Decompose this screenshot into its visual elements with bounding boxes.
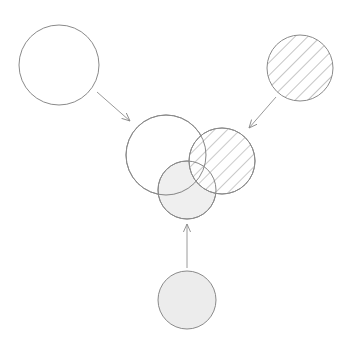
center-venn-layer [126, 115, 255, 219]
source-circle-gray-set [158, 271, 216, 329]
arrow-icon-from-plain-set [97, 92, 130, 121]
source-circle-hatched-set [267, 35, 333, 101]
arrow-icon-from-hatched-set [249, 97, 276, 128]
diagram-canvas [0, 0, 349, 345]
source-circle-plain-set [19, 25, 99, 105]
venn-diagram [0, 0, 349, 345]
